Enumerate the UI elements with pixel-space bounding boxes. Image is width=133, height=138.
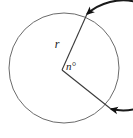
circle-outline [9, 13, 119, 123]
radius-segment-lower [62, 70, 111, 109]
radius-label: r [55, 37, 60, 51]
geometry-figure-circle-central-angle: r n° [0, 0, 133, 138]
circle-diagram-svg: r n° [0, 0, 133, 138]
angle-label: n° [66, 60, 77, 72]
major-arc-arrow [87, 0, 133, 110]
